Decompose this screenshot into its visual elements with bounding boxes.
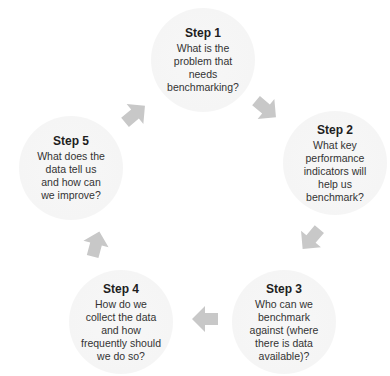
step-3-body: Who can we benchmark against (where ther… xyxy=(250,298,319,363)
step-1-title: Step 1 xyxy=(185,26,221,41)
arrow-step3-to-step4-icon xyxy=(190,304,220,334)
step-5-title: Step 5 xyxy=(53,134,89,149)
step-4-title: Step 4 xyxy=(103,282,139,297)
step-1-node: Step 1 What is the problem that needs be… xyxy=(151,8,255,112)
arrow-step5-to-step1-icon xyxy=(114,93,156,135)
step-4-body: How do we collect the data and how frequ… xyxy=(81,298,161,363)
step-3-title: Step 3 xyxy=(266,282,302,297)
step-2-body: What key performance indicators will hel… xyxy=(304,139,366,204)
step-2-node: Step 2 What key performance indicators w… xyxy=(283,111,387,215)
step-5-body: What does the data tell us and how can w… xyxy=(37,150,105,202)
step-5-node: Step 5 What does the data tell us and ho… xyxy=(19,116,123,220)
step-1-body: What is the problem that needs benchmark… xyxy=(167,42,239,94)
step-2-title: Step 2 xyxy=(317,123,353,138)
arrow-step4-to-step5-icon xyxy=(78,226,115,263)
step-3-node: Step 3 Who can we benchmark against (whe… xyxy=(232,270,336,374)
arrow-step1-to-step2-icon xyxy=(245,88,287,130)
arrow-step2-to-step3-icon xyxy=(290,218,332,260)
step-4-node: Step 4 How do we collect the data and ho… xyxy=(69,270,173,374)
